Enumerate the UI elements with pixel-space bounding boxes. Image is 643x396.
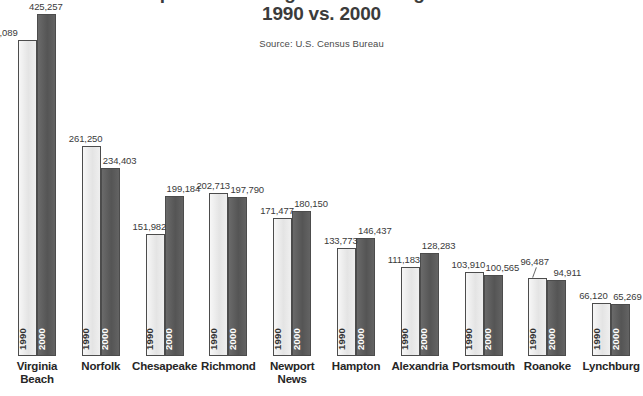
value-label-2000: 197,790	[230, 184, 264, 195]
bar-2000-richmond[interactable]: 2000	[228, 197, 247, 356]
bar-year-label: 2000	[356, 328, 366, 350]
population-bar-chart: Population of Virginia's Ten Largest Cit…	[0, 0, 643, 396]
bar-year-label: 1990	[592, 328, 602, 350]
value-label-1990: 171,477	[260, 205, 294, 216]
bar-year-label: 2000	[165, 328, 175, 350]
category-label-line-2: Beach	[0, 373, 87, 386]
value-label-1990: 66,120	[579, 290, 607, 301]
value-label-1990: 202,713	[196, 180, 230, 191]
bar-2000-portsmouth[interactable]: 2000	[484, 275, 503, 356]
value-label-1990: 103,910	[452, 259, 486, 270]
bar-year-label: 2000	[228, 328, 238, 350]
bar-1990-richmond[interactable]: 1990	[209, 193, 228, 356]
bar-group: 19902000	[528, 0, 566, 357]
bar-2000-virginia-beach[interactable]: 2000	[37, 14, 56, 356]
bar-1990-lynchburg[interactable]: 1990	[592, 303, 611, 356]
value-label-2000: 234,403	[103, 155, 137, 166]
bar-1990-portsmouth[interactable]: 1990	[465, 272, 484, 356]
bar-2000-chesapeake[interactable]: 2000	[165, 196, 184, 356]
bar-1990-norfolk[interactable]: 1990	[82, 146, 101, 356]
bar-group: 19902000	[592, 0, 630, 357]
bar-1990-alexandria[interactable]: 1990	[401, 267, 420, 356]
bar-group: 19902000	[209, 0, 247, 357]
bar-group: 19902000	[465, 0, 503, 357]
bar-group: 19902000	[82, 0, 120, 357]
bar-year-label: 1990	[146, 328, 156, 350]
bar-year-label: 2000	[101, 328, 111, 350]
bar-year-label: 1990	[528, 328, 538, 350]
value-label-2000: 199,184	[167, 183, 201, 194]
bar-year-label: 1990	[82, 328, 92, 350]
bar-year-label: 2000	[547, 328, 557, 350]
bar-year-label: 2000	[292, 328, 302, 350]
bar-year-label: 2000	[611, 328, 621, 350]
value-label-2000: 65,269	[613, 291, 641, 302]
bar-year-label: 1990	[401, 328, 411, 350]
bar-2000-alexandria[interactable]: 2000	[420, 253, 439, 356]
value-label-1990: 393,089	[0, 27, 18, 38]
bar-1990-roanoke[interactable]: 1990	[528, 278, 547, 356]
bar-year-label: 1990	[465, 328, 475, 350]
bar-group: 19902000	[18, 0, 56, 357]
bar-2000-norfolk[interactable]: 2000	[101, 168, 120, 356]
category-label-line-2: News	[242, 373, 342, 386]
value-label-1990: 111,183	[388, 254, 420, 265]
value-label-2000: 146,437	[358, 225, 392, 236]
value-label-2000: 128,283	[422, 240, 456, 251]
value-label-1990: 261,250	[69, 133, 103, 144]
category-label-line-1: Lynchburg	[583, 360, 640, 372]
plot-area: 19902000393,089425,25719902000261,250234…	[0, 0, 643, 357]
bar-year-label: 1990	[273, 328, 283, 350]
bar-group: 19902000	[273, 0, 311, 357]
value-label-1990: 133,773	[324, 235, 358, 246]
bar-year-label: 2000	[484, 328, 494, 350]
bar-group: 19902000	[337, 0, 375, 357]
value-label-2000: 425,257	[29, 1, 63, 12]
bar-1990-hampton[interactable]: 1990	[337, 248, 356, 356]
bar-1990-chesapeake[interactable]: 1990	[146, 234, 165, 356]
bar-year-label: 2000	[37, 328, 47, 350]
bar-2000-lynchburg[interactable]: 2000	[611, 304, 630, 356]
bar-group: 19902000	[146, 0, 184, 357]
value-label-2000: 100,565	[486, 262, 520, 273]
bar-1990-virginia-beach[interactable]: 1990	[18, 40, 37, 356]
bar-year-label: 1990	[209, 328, 219, 350]
category-label-lynchburg: Lynchburg	[561, 360, 643, 373]
bar-group: 19902000	[401, 0, 439, 357]
value-label-1990: 151,982	[133, 221, 167, 232]
bar-1990-newport-news[interactable]: 1990	[273, 218, 292, 356]
bar-year-label: 1990	[18, 328, 28, 350]
bar-year-label: 2000	[420, 328, 430, 350]
bar-2000-hampton[interactable]: 2000	[356, 238, 375, 356]
bar-2000-roanoke[interactable]: 2000	[547, 280, 566, 356]
value-label-2000: 94,911	[553, 267, 581, 278]
bar-year-label: 1990	[337, 328, 347, 350]
bar-2000-newport-news[interactable]: 2000	[292, 211, 311, 356]
value-label-1990: 96,487	[520, 256, 548, 267]
value-label-2000: 180,150	[294, 198, 328, 209]
